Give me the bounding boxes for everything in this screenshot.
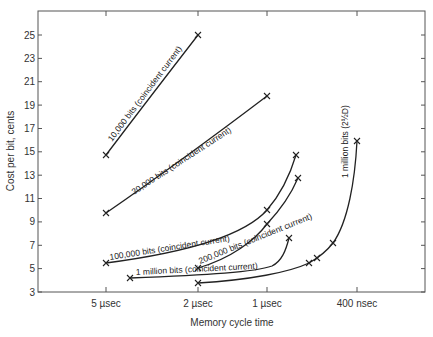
x-marker-icon [195,32,201,38]
y-tick-label: 21 [24,76,36,87]
y-tick-label: 17 [24,123,36,134]
x-axis-label: Memory cycle time [190,317,274,328]
y-tick-label: 23 [24,53,36,64]
series-10000-bits: 10,000 bits (coincident current) [103,32,201,158]
x-marker-icon [264,221,270,227]
series-200000-bits: 200,000 bits (coincident current) [195,175,313,271]
x-marker-icon [264,207,270,213]
y-tick-label: 13 [24,170,36,181]
x-marker-icon [306,260,312,266]
x-tick-label: 1 µsec [252,298,282,309]
x-tick-label: 2 µsec [183,298,213,309]
series-label: 10,000 bits (coincident current) [106,44,184,143]
series-label: 30,000 bits (coincident current) [130,125,233,197]
y-tick-label: 15 [24,146,36,157]
y-axis-label: Cost per bit, cents [5,111,16,192]
y-tick-label: 3 [29,287,35,298]
y-tick-label: 7 [29,240,35,251]
x-marker-icon [314,255,320,261]
y-tick-label: 9 [29,216,35,227]
y-tick-label: 19 [24,100,36,111]
y-tick-label: 5 [29,263,35,274]
chart: 3 5 7 9 11 13 15 17 19 21 23 25 Cost per… [0,0,433,337]
y-tick-label: 25 [24,30,36,41]
x-tick-label: 400 nsec [337,298,378,309]
x-marker-icon [295,175,301,181]
series-100000-bits: 100,000 bits (coincident current) [103,152,299,266]
x-tick-label: 5 µsec [91,298,121,309]
series-label: 1 million bits (2½D) [340,105,350,178]
x-marker-icon [264,93,270,99]
x-marker-icon [330,240,336,246]
y-tick-label: 11 [25,193,36,204]
x-marker-icon [103,210,109,216]
x-marker-icon [103,152,109,158]
